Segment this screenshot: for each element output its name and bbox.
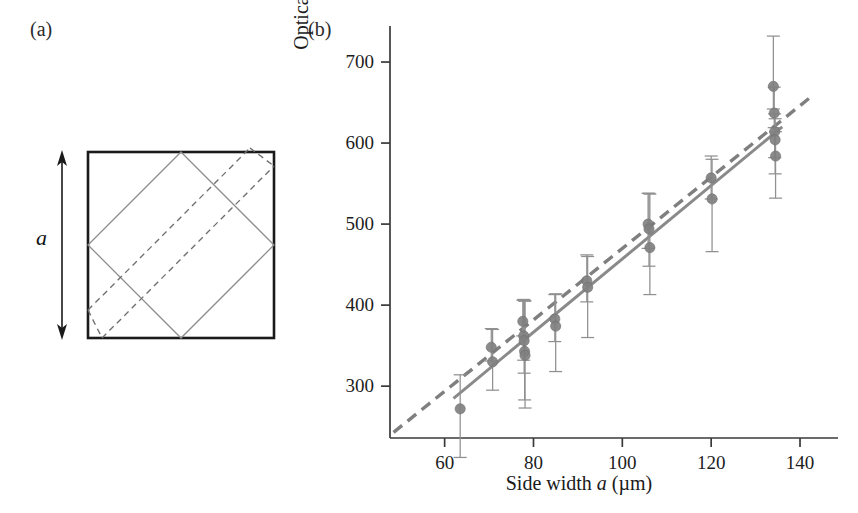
data-point (551, 321, 561, 331)
x-tick-label: 120 (697, 452, 726, 474)
data-point (770, 135, 780, 145)
y-tick-label: 500 (300, 213, 374, 235)
dimension-arrow (57, 150, 67, 340)
y-tick-label: 400 (300, 294, 374, 316)
outer-square (88, 152, 274, 338)
dashed-light-path (88, 148, 274, 338)
data-point (768, 81, 778, 91)
error-bar (767, 36, 780, 109)
y-tick-label: 600 (300, 132, 374, 154)
panel-a-label: (a) (30, 18, 52, 41)
data-point (520, 350, 530, 360)
x-axis-label-text: Side width a (µm) (506, 472, 653, 494)
data-markers (455, 81, 781, 414)
data-point (770, 151, 780, 161)
data-point (519, 336, 529, 346)
panel-a: (a) a (0, 0, 300, 460)
y-tick-label: 700 (300, 51, 374, 73)
data-point (644, 224, 654, 234)
data-point (769, 108, 779, 118)
x-tick-label: 80 (524, 452, 543, 474)
data-point (455, 404, 465, 414)
data-point (707, 194, 717, 204)
dashed-fit-line (394, 98, 809, 432)
data-point (583, 282, 593, 292)
y-axis-label: Optical length (µm) (290, 0, 313, 100)
figure-root: (a) a (b) Optical leng (0, 0, 858, 513)
y-axis-label-text: Optical length (µm) (290, 0, 312, 50)
data-point (486, 342, 496, 352)
x-tick-label: 100 (608, 452, 637, 474)
panel-b: (b) Optical length (µm) Side width a (µm… (300, 0, 858, 513)
scatter-plot (300, 0, 858, 470)
y-tick-label: 300 (300, 375, 374, 397)
inscribed-rotated-square (88, 152, 274, 338)
side-width-dimension-label: a (36, 225, 47, 251)
x-axis-label: Side width a (µm) (300, 472, 858, 495)
x-tick-label: 60 (435, 452, 454, 474)
data-point (706, 173, 716, 183)
error-bar (581, 256, 594, 337)
data-point (645, 242, 655, 252)
x-tick-label: 140 (786, 452, 815, 474)
fit-lines (394, 98, 809, 432)
solid-fit-line (454, 127, 783, 398)
data-point (488, 357, 498, 367)
error-bars (454, 36, 782, 457)
data-point (518, 316, 528, 326)
